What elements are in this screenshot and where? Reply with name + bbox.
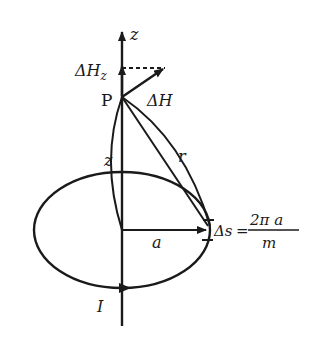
svg-text:2π a: 2π a — [249, 211, 283, 229]
svg-text:=: = — [236, 222, 249, 240]
r-label: r — [178, 147, 187, 166]
delta-s-formula: Δs = 2π a m — [213, 211, 299, 252]
loop-field-diagram: z ΔHz P ΔH r z a I Δs = 2π a m — [0, 0, 317, 339]
delta-hz-label: ΔHz — [74, 61, 108, 83]
current-label: I — [96, 297, 104, 316]
radius-label: a — [152, 233, 162, 252]
z-height-label: z — [103, 151, 113, 170]
delta-h-label: ΔH — [146, 91, 174, 110]
svg-text:m: m — [262, 234, 276, 252]
point-p-label: P — [101, 90, 112, 110]
svg-text:Δs: Δs — [213, 222, 233, 240]
z-arc — [111, 97, 122, 230]
current-arrow-icon — [119, 283, 131, 293]
z-axis-label: z — [129, 25, 139, 44]
r-line — [122, 97, 208, 226]
